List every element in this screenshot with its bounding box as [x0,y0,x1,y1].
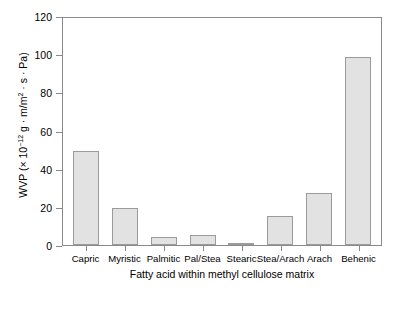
bar-slot [261,18,300,245]
x-axis-tick-label: Pal/Stea [184,253,220,264]
x-axis-title: Fatty acid within methyl cellulose matri… [62,268,382,280]
bar [228,243,254,245]
x-axis-tick-label: Capric [72,253,100,264]
x-axis-tick-label: Stearic [227,253,257,264]
x-axis-tick-label: Stea/Arach [257,253,304,264]
bar [345,57,371,245]
x-axis-tick [125,246,126,251]
y-axis-tick-label: 20 [2,203,52,213]
bar [306,193,332,245]
x-axis-tick [164,246,165,251]
y-axis-tick-label: 120 [2,12,52,22]
x-axis-tick-label: Arach [307,253,332,264]
y-axis-tick-label: 100 [2,50,52,60]
bar-slot [222,18,261,245]
x-axis-tick [242,246,243,251]
bars-container [63,18,381,245]
x-axis-tick [281,246,282,251]
y-axis-title-exponent: −12 [17,135,24,147]
bar-slot [67,18,106,245]
bar [190,235,216,245]
bar-slot [300,18,339,245]
x-axis-tick [203,246,204,251]
x-axis-tick-label: Myristic [108,253,141,264]
bar [73,151,99,245]
y-axis-tick-label: 60 [2,127,52,137]
bar [267,216,293,245]
x-axis-tick [86,246,87,251]
x-axis-tick-label: Palmitic [147,253,181,264]
x-axis-tick [320,246,321,251]
bar-slot [145,18,184,245]
y-axis-tick-label: 40 [2,165,52,175]
y-axis-tick [56,246,62,247]
bar [112,208,138,245]
chart-figure: WVP (× 10−12 g · m/m2 · s · Pa) 02040608… [0,0,396,309]
x-axis-tick [359,246,360,251]
y-axis-tick-label: 0 [2,241,52,251]
x-axis-tick-label: Behenic [341,253,376,264]
y-axis-tick-label: 80 [2,88,52,98]
plot-area [62,17,382,246]
bar-slot [183,18,222,245]
bar [151,237,177,245]
bar-slot [338,18,377,245]
bar-slot [106,18,145,245]
